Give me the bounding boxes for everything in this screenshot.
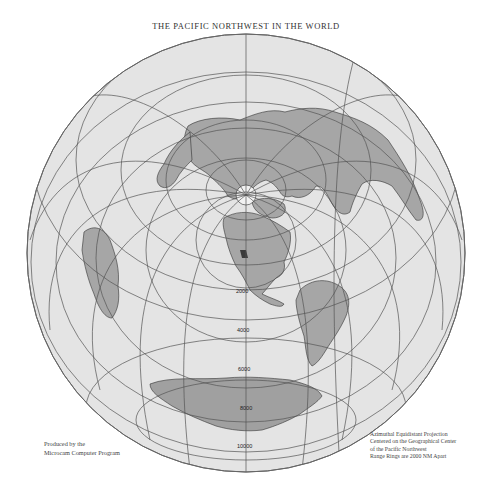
- legend-line-1: Azimuthal Equidistant Projection: [370, 431, 456, 438]
- ring-label-4000: 4000: [237, 327, 249, 333]
- projection-legend: Azimuthal Equidistant Projection Centere…: [370, 431, 456, 461]
- credit-line-2: Microcam Computer Program: [44, 449, 120, 458]
- legend-line-2: Centered on the Geographical Center: [370, 438, 456, 445]
- ring-label-6000: 6000: [238, 366, 250, 372]
- legend-line-3: of the Pacific Northwest: [370, 446, 456, 453]
- ring-label-10000: 10000: [237, 443, 252, 449]
- ring-label-8000: 8000: [240, 405, 252, 411]
- credit-line-1: Produced by the: [44, 440, 120, 449]
- legend-line-4: Range Rings are 2000 NM Apart: [370, 453, 456, 460]
- ring-label-2000: 2000: [236, 288, 248, 294]
- world-map: 2000 4000 6000 8000 10000: [0, 0, 492, 491]
- credit-text: Produced by the Microcam Computer Progra…: [44, 440, 120, 457]
